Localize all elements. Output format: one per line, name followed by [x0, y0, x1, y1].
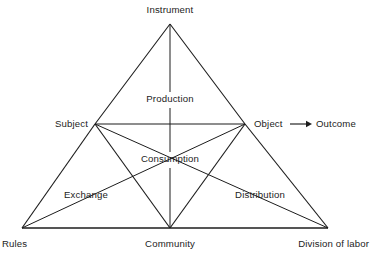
node-label-division-of-labor: Division of labor [298, 238, 369, 249]
node-label-outcome: Outcome [316, 118, 356, 129]
inner-label-production: Production [146, 93, 193, 104]
node-label-rules: Rules [2, 238, 27, 249]
object-to-outcome-arrowhead [306, 121, 312, 127]
inner-label-distribution: Distribution [235, 189, 285, 200]
edge-instrument-to-subject [95, 24, 170, 124]
edge-object-to-community [170, 124, 245, 228]
node-label-community: Community [145, 238, 195, 249]
node-label-subject: Subject [55, 118, 88, 129]
node-label-object: Object [254, 118, 283, 129]
inner-label-consumption: Consumption [141, 153, 199, 164]
edge-subject-to-rules [22, 124, 95, 228]
edge-instrument-to-object [170, 24, 245, 124]
inner-label-exchange: Exchange [64, 189, 108, 200]
activity-triangle-svg: Instrument Subject Object Outcome Rules … [0, 0, 371, 256]
edge-object-to-division [245, 124, 328, 228]
node-label-instrument: Instrument [147, 4, 194, 15]
activity-theory-diagram: Instrument Subject Object Outcome Rules … [0, 0, 371, 256]
